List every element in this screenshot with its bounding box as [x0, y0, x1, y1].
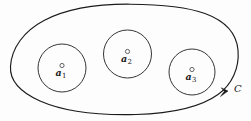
label-a1-subscript: 1	[62, 72, 66, 80]
label-a2: a2	[121, 54, 132, 64]
label-a2-subscript: 2	[127, 58, 131, 66]
contour-label-c: C	[234, 84, 242, 94]
label-a3-subscript: 3	[192, 76, 196, 84]
contour-diagram-figure: a1 a2 a3 C	[0, 0, 251, 121]
label-a1: a1	[56, 68, 67, 78]
label-a1-base: a	[56, 67, 62, 78]
label-a3-base: a	[186, 71, 192, 82]
label-a3: a3	[186, 72, 197, 82]
